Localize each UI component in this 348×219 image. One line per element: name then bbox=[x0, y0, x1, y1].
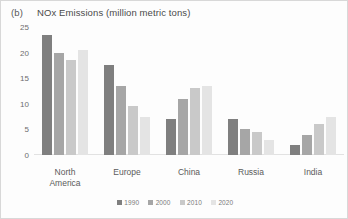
chart-title: NOx Emissions (million metric tons) bbox=[37, 7, 190, 18]
legend-swatch-icon bbox=[117, 200, 122, 205]
legend-item[interactable]: 2010 bbox=[180, 199, 202, 206]
x-axis-label: China bbox=[161, 167, 217, 193]
x-axis-label: NorthAmerica bbox=[37, 167, 93, 193]
legend-swatch-icon bbox=[211, 200, 216, 205]
bar bbox=[140, 117, 150, 155]
x-axis: NorthAmericaEuropeChinaRussiaIndia bbox=[34, 167, 344, 193]
y-axis-tick: 10 bbox=[20, 99, 29, 108]
y-axis-tick: 0 bbox=[25, 151, 29, 160]
panel-letter: (b) bbox=[11, 7, 23, 18]
chart-legend: 1990200020102020 bbox=[1, 199, 348, 206]
legend-label: 2000 bbox=[156, 199, 171, 206]
bar-group bbox=[285, 27, 341, 155]
y-axis-tick: 5 bbox=[25, 125, 29, 134]
legend-item[interactable]: 2000 bbox=[148, 199, 170, 206]
bar bbox=[116, 86, 126, 155]
legend-item[interactable]: 1990 bbox=[117, 199, 139, 206]
bar bbox=[302, 135, 312, 155]
bar bbox=[314, 124, 324, 155]
y-axis-tick: 15 bbox=[20, 74, 29, 83]
bar-group bbox=[99, 27, 155, 155]
chart-header: (b) NOx Emissions (million metric tons) bbox=[1, 7, 348, 23]
legend-label: 2020 bbox=[218, 199, 233, 206]
plot-area bbox=[34, 27, 344, 155]
bar bbox=[264, 140, 274, 155]
bar bbox=[202, 86, 212, 155]
bar bbox=[240, 129, 250, 155]
bar bbox=[252, 132, 262, 155]
bar bbox=[166, 119, 176, 155]
y-axis-tick: 20 bbox=[20, 48, 29, 57]
legend-item[interactable]: 2020 bbox=[211, 199, 233, 206]
bar bbox=[326, 117, 336, 155]
x-axis-label: Russia bbox=[223, 167, 279, 193]
y-axis-tick: 25 bbox=[20, 23, 29, 32]
bar bbox=[54, 53, 64, 155]
bar bbox=[228, 119, 238, 155]
bar bbox=[78, 50, 88, 155]
bar bbox=[190, 88, 200, 155]
bar bbox=[66, 60, 76, 155]
bar bbox=[104, 65, 114, 155]
bar bbox=[42, 35, 52, 155]
legend-label: 1990 bbox=[124, 199, 139, 206]
legend-swatch-icon bbox=[180, 200, 185, 205]
x-axis-label: Europe bbox=[99, 167, 155, 193]
bar-group bbox=[37, 27, 93, 155]
plot-wrapper: 2520151050 bbox=[1, 27, 348, 167]
bar-groups bbox=[34, 27, 344, 155]
bar-group bbox=[161, 27, 217, 155]
bar-group bbox=[223, 27, 279, 155]
y-axis: 2520151050 bbox=[1, 27, 33, 155]
legend-swatch-icon bbox=[148, 200, 153, 205]
chart-figure: (b) NOx Emissions (million metric tons) … bbox=[0, 0, 348, 219]
bar bbox=[178, 99, 188, 155]
bar bbox=[290, 145, 300, 155]
x-axis-label: India bbox=[285, 167, 341, 193]
bar bbox=[128, 106, 138, 155]
legend-label: 2010 bbox=[187, 199, 202, 206]
